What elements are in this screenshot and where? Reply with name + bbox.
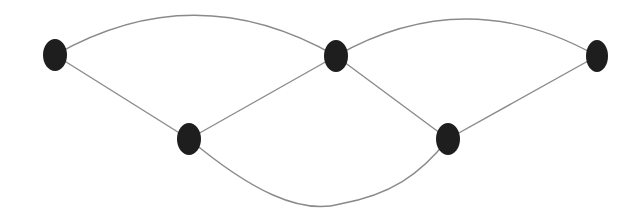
node-n3 <box>586 40 608 72</box>
edge-n1-n2 <box>55 15 336 56</box>
node-n4 <box>177 123 201 155</box>
edges-group <box>55 15 597 206</box>
graph-diagram <box>0 0 637 222</box>
edge-n1-n4 <box>55 55 189 139</box>
node-n1 <box>43 39 67 71</box>
edge-n2-n3 <box>336 19 597 56</box>
edge-n2-n5 <box>336 56 448 139</box>
node-n5 <box>436 123 460 155</box>
node-n2 <box>324 40 348 72</box>
edge-n5-n3 <box>448 56 597 139</box>
edge-n4-n5 <box>189 139 448 207</box>
edge-n4-n2 <box>189 56 336 139</box>
